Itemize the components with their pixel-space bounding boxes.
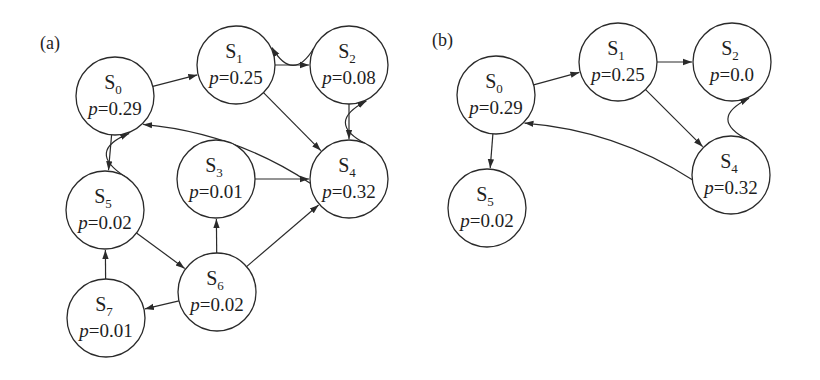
state-subscript: 2	[349, 51, 356, 66]
probability-value: 0.01	[99, 320, 132, 341]
state-letter: S	[607, 37, 618, 59]
probability-symbol: p	[320, 181, 332, 202]
edge-s1-to-s4	[646, 90, 703, 147]
equals-sign: =	[601, 64, 612, 85]
edge-s4-to-s0	[525, 123, 693, 180]
state-node-s7: S7p=0.01	[67, 279, 145, 357]
probability-value: 0.25	[611, 64, 644, 85]
state-node-s6: S6p=0.02	[178, 253, 256, 331]
panel-b-nodes: S0p=0.29S1p=0.25S2p=0.0S4p=0.32S5p=0.02	[448, 23, 771, 247]
probability-value: 0.25	[229, 67, 262, 88]
probability-value: 0.29	[489, 97, 522, 118]
equals-sign: =	[332, 67, 343, 88]
equals-sign: =	[89, 320, 100, 341]
probability-value: 0.32	[724, 177, 757, 198]
probability-symbol: p	[188, 294, 200, 315]
probability-value: 0.02	[98, 212, 131, 233]
edge-s6-to-s4	[247, 205, 319, 267]
state-subscript: 0	[115, 82, 122, 97]
state-node-s5: S5p=0.02	[66, 171, 144, 249]
state-probability: p=0.02	[458, 210, 513, 231]
state-probability: p=0.32	[702, 177, 757, 198]
state-probability: p=0.0	[708, 64, 754, 85]
state-subscript: 0	[496, 81, 503, 96]
equals-sign: =	[720, 64, 731, 85]
state-letter: S	[720, 150, 731, 172]
state-node-s4: S4p=0.32	[692, 136, 770, 214]
state-subscript: 5	[105, 196, 112, 211]
panel-a-label: (a)	[40, 33, 60, 54]
state-subscript: 2	[732, 48, 739, 63]
state-node-s1: S1p=0.25	[579, 23, 657, 101]
state-node-s0: S0p=0.29	[76, 57, 154, 135]
state-probability: p=0.02	[76, 212, 131, 233]
probability-symbol: p	[77, 320, 89, 341]
state-probability: p=0.08	[320, 67, 375, 88]
probability-symbol: p	[702, 177, 714, 198]
equals-sign: =	[219, 67, 230, 88]
probability-value: 0.08	[342, 67, 375, 88]
probability-symbol: p	[458, 210, 470, 231]
state-node-s1: S1p=0.25	[197, 26, 275, 104]
state-subscript: 4	[349, 165, 356, 180]
edge-s1-to-s4	[264, 93, 321, 151]
equals-sign: =	[479, 97, 490, 118]
probability-symbol: p	[320, 67, 332, 88]
state-letter: S	[104, 71, 115, 93]
probability-symbol: p	[76, 212, 88, 233]
equals-sign: =	[332, 181, 343, 202]
state-letter: S	[95, 293, 106, 315]
equals-sign: =	[199, 181, 210, 202]
state-node-s4: S4p=0.32	[310, 140, 388, 218]
probability-symbol: p	[467, 97, 479, 118]
edge-s0-to-s1	[534, 72, 580, 84]
panel-a-nodes: S0p=0.29S1p=0.25S2p=0.08S3p=0.01S4p=0.32…	[66, 26, 388, 357]
edge-s2-to-s1	[272, 48, 314, 66]
equals-sign: =	[470, 210, 481, 231]
panel-b: S0p=0.29S1p=0.25S2p=0.0S4p=0.32S5p=0.02 …	[432, 23, 771, 247]
probability-value: 0.02	[480, 210, 513, 231]
state-letter: S	[338, 40, 349, 62]
state-node-s0: S0p=0.29	[457, 56, 535, 134]
state-transition-figure: S0p=0.29S1p=0.25S2p=0.08S3p=0.01S4p=0.32…	[0, 0, 820, 380]
state-subscript: 3	[216, 165, 223, 180]
state-probability: p=0.29	[467, 97, 522, 118]
state-letter: S	[206, 267, 217, 289]
state-probability: p=0.32	[320, 181, 375, 202]
state-node-s2: S2p=0.08	[310, 26, 388, 104]
state-letter: S	[485, 70, 496, 92]
state-node-s3: S3p=0.01	[177, 140, 255, 218]
probability-symbol: p	[187, 181, 199, 202]
state-probability: p=0.01	[187, 181, 242, 202]
probability-value: 0.01	[209, 181, 242, 202]
equals-sign: =	[88, 212, 99, 233]
edge-s5-to-s6	[137, 233, 185, 268]
state-subscript: 5	[487, 194, 494, 209]
probability-value: 0.0	[730, 64, 754, 85]
state-letter: S	[225, 40, 236, 62]
probability-symbol: p	[708, 64, 720, 85]
probability-symbol: p	[207, 67, 219, 88]
state-subscript: 1	[618, 48, 625, 63]
edge-s4-to-s2	[728, 98, 749, 140]
state-probability: p=0.25	[589, 64, 644, 85]
equals-sign: =	[714, 177, 725, 198]
state-probability: p=0.25	[207, 67, 262, 88]
panel-b-label: (b)	[432, 30, 453, 51]
panel-a: S0p=0.29S1p=0.25S2p=0.08S3p=0.01S4p=0.32…	[40, 26, 388, 357]
edge-s0-to-s5	[490, 134, 493, 168]
probability-symbol: p	[589, 64, 601, 85]
probability-symbol: p	[86, 98, 98, 119]
state-subscript: 4	[731, 161, 738, 176]
state-letter: S	[476, 183, 487, 205]
state-node-s2: S2p=0.0	[693, 23, 771, 101]
state-subscript: 6	[217, 278, 224, 293]
state-letter: S	[721, 37, 732, 59]
probability-value: 0.32	[342, 181, 375, 202]
state-node-s5: S5p=0.02	[448, 169, 526, 247]
equals-sign: =	[98, 98, 109, 119]
edge-s6-to-s7	[145, 301, 179, 309]
equals-sign: =	[200, 294, 211, 315]
probability-value: 0.02	[210, 294, 243, 315]
state-subscript: 1	[236, 51, 243, 66]
